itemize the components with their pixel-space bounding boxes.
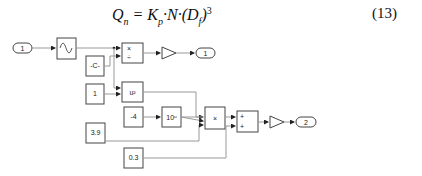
outport-2[interactable]: 2 [296,117,316,127]
power-label: u² [129,89,136,96]
outport-1-label: 1 [204,50,208,57]
inport-1[interactable]: 1 [13,43,32,53]
multiply-sign: × [127,45,131,52]
simulink-diagram: 1 -C- × ÷ 1 1 u² [0,0,422,176]
product-sign: × [213,115,217,122]
product-block[interactable]: × [205,107,225,129]
gain-block-2[interactable] [270,116,284,128]
constant-neg4-label: -4 [130,113,136,120]
pow10-label: 10ᵘ [166,114,177,121]
outport-2-label: 2 [304,119,308,126]
sine-wave-block[interactable] [57,38,76,59]
constant-0-3-block[interactable]: 0.3 [124,148,143,168]
power-block[interactable]: u² [122,82,143,102]
outport-1[interactable]: 1 [196,48,215,58]
constant-3-9-label: 3.9 [91,129,101,136]
sum-plus-1: + [240,113,244,120]
constant-1-block[interactable]: 1 [86,84,104,104]
pow10-block[interactable]: 10ᵘ [162,107,181,127]
divide-block[interactable]: × ÷ [122,43,143,63]
constant-3-9-block[interactable]: 3.9 [86,123,105,143]
constant-c-block[interactable]: -C- [86,56,104,76]
sum-block[interactable]: + + [237,111,258,132]
inport-1-label: 1 [21,45,25,52]
constant-c-label: -C- [90,62,100,69]
sum-plus-2: + [240,123,244,130]
constant-1-label: 1 [93,90,97,97]
constant-0-3-label: 0.3 [129,154,139,161]
gain-block-1[interactable] [162,47,176,59]
divide-sign: ÷ [127,54,131,61]
constant-neg4-block[interactable]: -4 [124,107,143,127]
